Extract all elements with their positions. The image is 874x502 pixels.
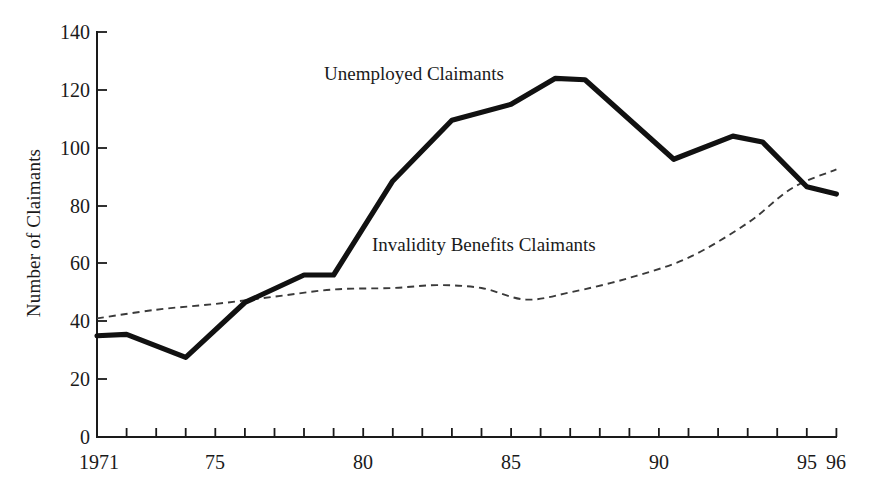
series-line-unemployed-claimants [97, 78, 836, 357]
chart-container: Number of Claimants 140 120 100 80 60 40… [0, 0, 874, 502]
y-axis-ticks [97, 32, 107, 379]
x-axis-ticks [127, 428, 837, 437]
plot-area [0, 0, 874, 502]
series-line-invalidity-benefits-claimants [97, 169, 836, 318]
axes [97, 32, 836, 437]
